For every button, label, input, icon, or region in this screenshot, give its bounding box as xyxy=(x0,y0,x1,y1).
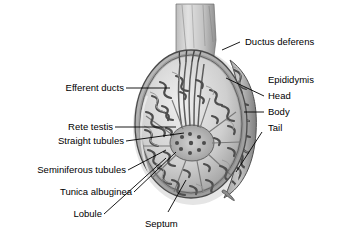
label-seminiferous-tubules: Seminiferous tubules xyxy=(0,164,126,175)
label-lobule: Lobule xyxy=(0,208,102,219)
anatomy-figure: Efferent ducts Rete testis Straight tubu… xyxy=(0,0,346,241)
label-efferent-ducts: Efferent ducts xyxy=(0,82,124,93)
spermatic-cord xyxy=(176,4,216,56)
label-head: Head xyxy=(268,90,291,101)
label-body: Body xyxy=(268,106,290,117)
label-septum: Septum xyxy=(145,218,178,229)
rete-testis xyxy=(170,125,214,161)
leader-ductus-deferens xyxy=(222,42,240,50)
label-tail: Tail xyxy=(268,122,282,133)
label-ductus-deferens: Ductus deferens xyxy=(245,36,314,47)
label-tunica-albuginea: Tunica albuginea xyxy=(0,186,132,197)
label-epididymis: Epididymis xyxy=(268,74,314,85)
label-rete-testis: Rete testis xyxy=(0,121,113,132)
label-straight-tubules: Straight tubules xyxy=(0,135,124,146)
